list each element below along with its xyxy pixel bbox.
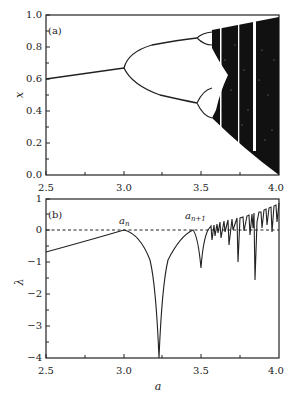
annotation-a-n: an xyxy=(119,215,130,228)
panel-a-ytick: 0.2 xyxy=(26,137,42,148)
panel-a-ytick: 0.4 xyxy=(26,105,42,116)
periodic-window-1 xyxy=(220,28,222,128)
panel-b-ytick: 0 xyxy=(36,224,42,235)
panel-a-ytick: 0.6 xyxy=(26,73,42,84)
chaotic-region xyxy=(212,17,279,175)
panel-b-frame xyxy=(46,199,279,358)
panel-b-ytick: −4 xyxy=(27,352,42,363)
panel-b-xtick: 4.0 xyxy=(268,365,284,376)
panel-a-ticks xyxy=(46,15,240,175)
annotation-a-n-plus-1: an+1 xyxy=(185,210,206,223)
panel-b-ytick: −1 xyxy=(27,256,42,267)
periodic-window-2 xyxy=(238,24,239,144)
panel-a: 1.0 0.8 0.6 0.4 0.2 0.0 2.5 3.0 3.5 4.0 … xyxy=(13,9,284,193)
panel-a-ytick: 0.8 xyxy=(26,41,42,52)
panel-a-ylabel: x xyxy=(13,91,26,98)
panel-b-xlabel: a xyxy=(155,380,162,393)
panel-b-ytick: 1 xyxy=(36,193,42,204)
panel-b-xtick: 3.5 xyxy=(193,365,209,376)
panel-b-label: (b) xyxy=(48,209,62,220)
lyapunov-curve xyxy=(46,203,279,358)
period-2-lower xyxy=(124,68,197,103)
panel-a-ytick: 0.0 xyxy=(26,169,42,180)
periodic-window-3 xyxy=(253,21,256,151)
panel-a-xtick: 3.5 xyxy=(193,182,209,193)
period-4-upper xyxy=(197,32,212,45)
panel-a-xtick: 4.0 xyxy=(268,182,284,193)
period-2-upper xyxy=(124,38,197,68)
panel-b-ytick: −3 xyxy=(27,320,42,331)
fixed-point-branch xyxy=(46,68,124,79)
panel-b: 1 0 −1 −2 −3 −4 2.5 3.0 3.5 4.0 a λ (b) … xyxy=(13,193,284,393)
figure: 1.0 0.8 0.6 0.4 0.2 0.0 2.5 3.0 3.5 4.0 … xyxy=(0,0,293,398)
panel-a-ytick: 1.0 xyxy=(26,9,42,20)
panel-b-ylabel: λ xyxy=(13,279,26,287)
panel-b-ytick: −2 xyxy=(27,288,42,299)
panel-a-label: (a) xyxy=(48,25,62,36)
panel-b-ticks xyxy=(46,199,240,358)
period-4-lower xyxy=(197,88,212,118)
panel-b-xtick: 3.0 xyxy=(116,365,132,376)
panel-a-xtick: 2.5 xyxy=(38,182,54,193)
panel-b-xtick: 2.5 xyxy=(38,365,54,376)
panel-a-xtick: 3.0 xyxy=(116,182,132,193)
